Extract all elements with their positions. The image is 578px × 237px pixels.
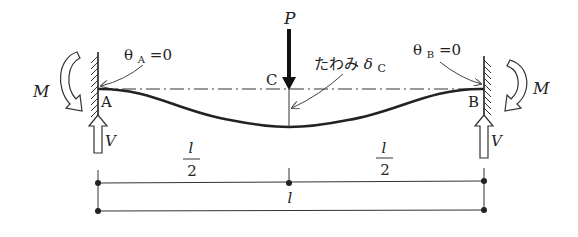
moment-b-label: M: [532, 79, 550, 98]
moment-a-arrow-icon: [60, 52, 82, 111]
reaction-b-label: V: [491, 132, 504, 150]
beam-diagram: P C たわみ δ C θ A =0 θ B =0 A B M M V V: [0, 0, 578, 237]
moment-a-label: M: [32, 82, 50, 101]
svg-text:2: 2: [380, 161, 390, 179]
reaction-a-label: V: [105, 132, 118, 150]
load-label: P: [283, 8, 296, 28]
deflection-pointer-arrow: [292, 74, 343, 108]
rotation-a-label: θ A =0: [124, 46, 172, 67]
deflected-beam: [98, 89, 484, 127]
fixed-support-b: [484, 56, 491, 118]
fixed-support-a: [91, 52, 98, 118]
rotation-b-label: θ B =0: [413, 41, 461, 62]
svg-text:l: l: [189, 139, 194, 157]
dimension-left-half: l 2: [183, 139, 200, 180]
midpoint-label: C: [266, 71, 277, 89]
rotation-a-pointer-arrow: [101, 65, 143, 86]
load-arrow-icon: [282, 29, 296, 90]
svg-text:l: l: [382, 139, 387, 157]
support-a-label: A: [100, 93, 112, 111]
moment-b-arrow-icon: [505, 60, 527, 111]
support-b-label: B: [468, 93, 479, 111]
rotation-b-pointer-arrow: [440, 62, 481, 84]
dimension-right-half: l 2: [376, 139, 393, 179]
svg-text:2: 2: [187, 162, 197, 180]
deflection-label: たわみ δ C: [314, 55, 386, 75]
dimension-total: l: [288, 189, 293, 207]
